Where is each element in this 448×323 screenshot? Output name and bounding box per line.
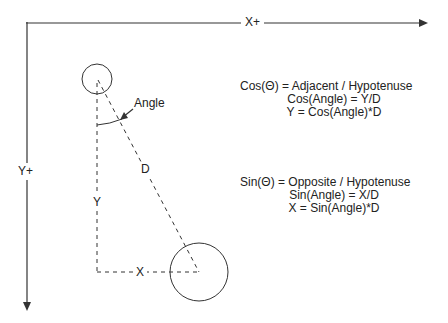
y-axis-label: Y+ <box>18 163 33 180</box>
x-axis-label: X+ <box>241 16 264 29</box>
x-label: X <box>133 266 147 279</box>
angle-label: Angle <box>134 97 165 110</box>
y-label: Y <box>93 194 101 211</box>
d-label: D <box>141 162 150 177</box>
x-axis-arrow-icon <box>419 19 428 27</box>
origin-circle <box>82 64 112 94</box>
diagram-canvas <box>0 0 448 323</box>
y-axis-arrow-icon <box>23 302 31 311</box>
cos-equations: Cos(Θ) = Adjacent / Hypotenuse Cos(Angle… <box>240 80 410 119</box>
y-formula: Y = Cos(Angle)*D <box>240 106 410 119</box>
x-formula: X = Sin(Angle)*D <box>240 202 410 215</box>
angle-arc <box>97 119 122 125</box>
sin-equations: Sin(Θ) = Opposite / Hypotenuse Sin(Angle… <box>240 176 410 215</box>
